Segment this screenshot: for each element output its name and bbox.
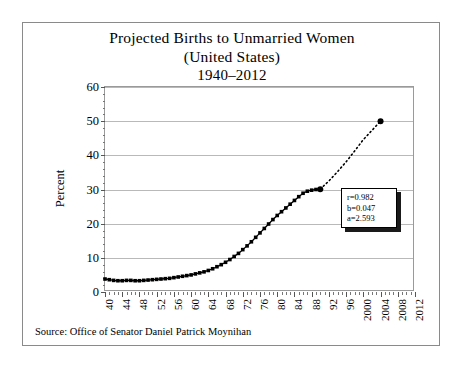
data-point-marker	[271, 218, 275, 222]
x-tick-label: 56	[172, 299, 184, 310]
x-minor-tick	[251, 292, 252, 295]
x-minor-tick	[376, 292, 377, 295]
projection-endpoint-marker	[378, 118, 384, 124]
x-tick-label: 96	[344, 299, 356, 310]
plot-area: 0102030405060 40444852566064687276808488…	[104, 86, 414, 291]
x-minor-tick	[303, 292, 304, 295]
x-tick-label: 2004	[379, 299, 391, 321]
x-minor-tick	[350, 292, 351, 295]
x-minor-tick	[325, 292, 326, 295]
x-minor-tick	[217, 292, 218, 295]
x-minor-tick	[269, 292, 270, 295]
x-minor-tick	[170, 292, 171, 295]
x-minor-tick	[118, 292, 119, 295]
x-minor-tick	[402, 292, 403, 295]
y-tick-label: 60	[87, 80, 100, 95]
data-point-marker	[306, 189, 310, 193]
x-tick	[381, 292, 382, 297]
x-minor-tick	[230, 292, 231, 295]
x-tick-label: 88	[310, 299, 322, 310]
y-axis-title: Percent	[53, 86, 69, 291]
data-point-marker	[189, 273, 193, 277]
x-minor-tick	[221, 292, 222, 295]
data-point-marker	[116, 279, 120, 283]
data-point-marker	[207, 269, 211, 273]
x-tick-label: 52	[155, 299, 167, 310]
x-tick-label: 76	[258, 299, 270, 310]
x-tick-label: 40	[103, 299, 115, 310]
x-minor-tick	[127, 292, 128, 295]
data-point-marker	[288, 202, 292, 206]
x-tick	[174, 292, 175, 297]
chart-title-line-2: (United States)	[23, 47, 441, 66]
stat-a: a=2.593	[347, 213, 391, 224]
y-tick-label: 10	[87, 250, 100, 265]
x-minor-tick	[256, 292, 257, 295]
x-tick	[346, 292, 347, 297]
x-minor-tick	[316, 292, 317, 295]
y-tick-label: 20	[87, 216, 100, 231]
x-minor-tick	[234, 292, 235, 295]
data-point-marker	[228, 258, 232, 262]
data-point-marker	[314, 188, 318, 192]
x-tick	[139, 292, 140, 297]
data-point-marker	[267, 222, 271, 226]
data-point-marker	[168, 277, 172, 281]
x-minor-tick	[114, 292, 115, 295]
data-point-marker	[215, 265, 219, 269]
x-minor-tick	[299, 292, 300, 295]
data-point-marker	[301, 191, 305, 195]
data-point-marker	[293, 199, 297, 203]
y-tick-label: 30	[87, 182, 100, 197]
data-point-marker	[112, 279, 116, 283]
x-tick	[243, 292, 244, 297]
x-tick	[398, 292, 399, 297]
x-minor-tick	[238, 292, 239, 295]
data-point-marker	[310, 188, 314, 192]
x-minor-tick	[144, 292, 145, 295]
data-point-marker	[224, 260, 228, 264]
x-minor-tick	[389, 292, 390, 295]
x-tick-label: 44	[120, 299, 132, 310]
data-point-marker	[176, 275, 180, 279]
chart-title-line-1: Projected Births to Unmarried Women	[23, 28, 441, 47]
x-tick-label: 80	[275, 299, 287, 310]
data-point-marker	[275, 214, 279, 218]
x-minor-tick	[411, 292, 412, 295]
data-point-marker	[120, 279, 124, 283]
x-minor-tick	[338, 292, 339, 295]
x-tick-label: 2012	[413, 299, 425, 321]
x-minor-tick	[307, 292, 308, 295]
data-point-marker	[155, 278, 159, 282]
data-point-marker	[103, 277, 107, 281]
x-minor-tick	[385, 292, 386, 295]
x-tick-label: 84	[292, 299, 304, 310]
x-minor-tick	[372, 292, 373, 295]
data-point-marker	[142, 279, 146, 283]
data-point-marker	[172, 276, 176, 280]
x-minor-tick	[178, 292, 179, 295]
data-point-marker	[219, 263, 223, 267]
x-tick	[294, 292, 295, 297]
data-point-marker	[237, 252, 241, 256]
x-tick	[191, 292, 192, 297]
data-point-marker	[125, 279, 129, 283]
x-minor-tick	[290, 292, 291, 295]
x-tick-label: 2000	[361, 299, 373, 321]
regression-stats-box: r=0.982 b=0.047 a=2.593	[341, 188, 397, 228]
x-minor-tick	[148, 292, 149, 295]
projection-endpoint-marker	[317, 186, 323, 192]
x-tick	[312, 292, 313, 297]
y-tick-label: 40	[87, 148, 100, 163]
x-minor-tick	[273, 292, 274, 295]
x-minor-tick	[131, 292, 132, 295]
x-tick-label: 64	[206, 299, 218, 310]
chart-frame: Projected Births to Unmarried Women (Uni…	[22, 22, 440, 346]
x-minor-tick	[165, 292, 166, 295]
x-minor-tick	[355, 292, 356, 295]
y-tick-label: 50	[87, 114, 100, 129]
data-point-marker	[194, 272, 198, 276]
stat-b: b=0.047	[347, 203, 391, 214]
x-tick	[105, 292, 106, 297]
x-minor-tick	[183, 292, 184, 295]
